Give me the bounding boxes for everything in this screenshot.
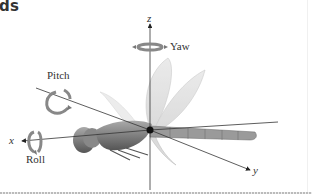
y-axis-label: y <box>253 164 258 176</box>
pitch-label: Pitch <box>47 69 70 81</box>
origin-dot <box>147 127 154 134</box>
page-edge <box>307 0 308 192</box>
divider <box>0 192 312 194</box>
pitch-rotation-icon <box>47 90 72 113</box>
roll-label: Roll <box>26 153 45 165</box>
roll-rotation-icon <box>29 132 41 155</box>
z-axis-label: z <box>147 12 151 24</box>
x-axis-label: x <box>9 134 14 146</box>
yaw-label: Yaw <box>170 40 190 52</box>
rotation-axes-diagram <box>0 0 312 195</box>
